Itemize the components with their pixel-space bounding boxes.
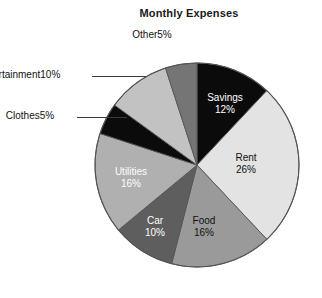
- pie-label-other: Other5%: [112, 29, 192, 41]
- pie-label-name: Other: [132, 29, 157, 40]
- pie-label-value: 5%: [40, 110, 54, 121]
- pie-label-entertainment: Entertainment10%: [0, 69, 58, 81]
- pie-label-value: 5%: [157, 29, 171, 40]
- pie-chart-figure: Monthly Expenses Savings12%Rent26%Food16…: [0, 0, 322, 298]
- pie-slices-group: [95, 63, 299, 267]
- leader-line-clothes: [77, 117, 127, 118]
- leader-line-entertainment: [92, 76, 146, 77]
- pie-label-name: Clothes: [6, 110, 40, 121]
- pie-chart-canvas: [0, 0, 322, 298]
- pie-label-name: Entertainment: [0, 69, 40, 80]
- pie-label-clothes: Clothes5%: [0, 110, 70, 122]
- pie-label-value: 10%: [40, 69, 60, 80]
